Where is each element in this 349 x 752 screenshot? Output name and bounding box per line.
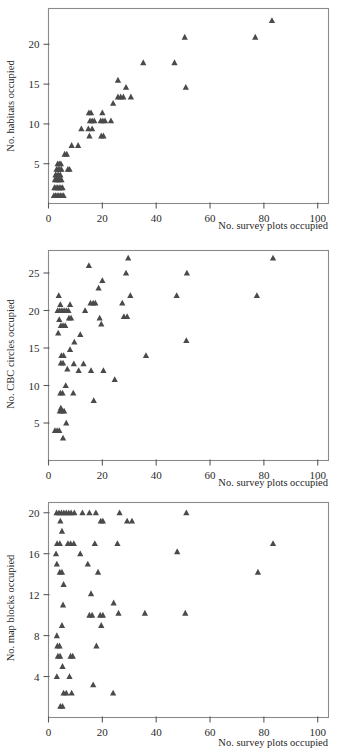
data-point-marker <box>184 270 190 276</box>
data-point-marker <box>85 561 91 567</box>
chart-3-svg: 48121620 020406080100 No. survey plots o… <box>0 490 349 752</box>
data-point-marker <box>116 509 122 515</box>
data-point-marker <box>254 292 260 298</box>
data-point-marker <box>183 84 189 90</box>
data-point-marker <box>252 34 258 40</box>
data-point-marker <box>57 301 63 307</box>
data-point-marker <box>57 518 63 524</box>
chart-3-x-ticks: 020406080100 <box>46 717 327 738</box>
data-point-marker <box>97 315 103 321</box>
data-point-marker <box>112 376 118 382</box>
data-point-marker <box>110 690 116 696</box>
y-tick-label: 5 <box>34 158 40 170</box>
data-point-marker <box>100 367 106 373</box>
data-point-marker <box>270 255 276 261</box>
data-point-marker <box>171 59 177 65</box>
data-point-marker <box>128 94 134 100</box>
data-point-marker <box>270 540 276 546</box>
y-tick-label: 16 <box>29 548 41 560</box>
data-point-marker <box>123 270 129 276</box>
data-point-marker <box>78 125 84 131</box>
chart-3-y-ticks: 48121620 <box>29 507 50 683</box>
data-point-marker <box>115 77 121 83</box>
data-point-marker <box>71 360 77 366</box>
y-tick-label: 10 <box>29 118 41 130</box>
data-point-marker <box>63 420 69 426</box>
data-point-marker <box>59 663 65 669</box>
data-point-marker <box>89 125 95 131</box>
data-point-marker <box>79 509 85 515</box>
x-tick-label: 40 <box>151 726 163 738</box>
data-point-marker <box>77 331 83 337</box>
data-point-marker <box>77 550 83 556</box>
data-point-marker <box>86 509 92 515</box>
chart-2-svg: 510152025 020406080100 No. survey plots … <box>0 240 349 490</box>
y-tick-label: 8 <box>34 630 40 642</box>
scatter-panel-habitats: 5101520 020406080100 No. survey plots oc… <box>0 0 349 240</box>
data-point-marker <box>76 367 82 373</box>
data-point-marker <box>56 316 62 322</box>
data-point-marker <box>123 84 129 90</box>
data-point-marker <box>63 382 69 388</box>
data-point-marker <box>86 262 92 268</box>
data-point-marker <box>142 610 148 616</box>
chart-1-svg: 5101520 020406080100 No. survey plots oc… <box>0 0 349 240</box>
y-tick-label: 15 <box>29 78 41 90</box>
data-point-marker <box>174 292 180 298</box>
data-point-marker <box>53 550 59 556</box>
y-tick-label: 20 <box>29 38 41 50</box>
data-point-marker <box>140 59 146 65</box>
data-point-marker <box>67 301 73 307</box>
y-tick-label: 5 <box>34 417 40 429</box>
data-point-marker <box>98 321 104 327</box>
x-tick-label: 40 <box>151 469 163 481</box>
x-tick-label: 40 <box>151 212 163 224</box>
data-point-marker <box>98 622 104 628</box>
data-point-marker <box>183 509 189 515</box>
data-point-marker <box>59 622 65 628</box>
data-point-marker <box>110 100 116 106</box>
x-tick-label: 100 <box>309 726 326 738</box>
data-point-marker <box>54 561 60 567</box>
data-point-marker <box>64 366 70 372</box>
data-point-marker <box>66 673 72 679</box>
data-point-marker <box>174 548 180 554</box>
y-tick-label: 15 <box>29 342 41 354</box>
data-point-marker <box>59 528 65 534</box>
data-point-marker <box>60 435 66 441</box>
data-point-marker <box>182 610 188 616</box>
x-tick-label: 20 <box>97 469 109 481</box>
data-point-marker <box>125 255 131 261</box>
x-tick-label: 20 <box>97 212 109 224</box>
data-point-marker <box>95 285 101 291</box>
data-point-marker <box>80 360 86 366</box>
data-point-marker <box>69 142 75 148</box>
x-tick-label: 0 <box>46 726 52 738</box>
y-tick-label: 4 <box>34 671 40 683</box>
scatter-panel-cbc-circles: 510152025 020406080100 No. survey plots … <box>0 240 349 490</box>
data-point-marker <box>129 518 135 524</box>
data-point-marker <box>114 540 120 546</box>
x-tick-label: 0 <box>46 469 52 481</box>
data-point-marker <box>86 133 92 139</box>
x-tick-label: 60 <box>205 726 217 738</box>
data-point-marker <box>58 405 64 411</box>
x-tick-label: 0 <box>46 212 52 224</box>
chart-1-y-ticks: 5101520 <box>29 38 50 169</box>
chart-2-ylabel: No. CBC circles occupied <box>5 298 16 408</box>
chart-2-points <box>52 255 276 441</box>
y-tick-label: 20 <box>29 305 41 317</box>
data-point-marker <box>60 602 66 608</box>
data-point-marker <box>60 581 66 587</box>
data-point-marker <box>93 643 99 649</box>
data-point-marker <box>75 142 81 148</box>
x-tick-label: 60 <box>205 469 217 481</box>
data-point-marker <box>71 339 77 345</box>
data-point-marker <box>88 590 94 596</box>
y-tick-label: 10 <box>29 380 41 392</box>
x-tick-label: 60 <box>205 212 217 224</box>
chart-1-points <box>51 17 275 198</box>
data-point-marker <box>115 610 121 616</box>
data-point-marker <box>69 690 75 696</box>
data-point-marker <box>119 300 125 306</box>
